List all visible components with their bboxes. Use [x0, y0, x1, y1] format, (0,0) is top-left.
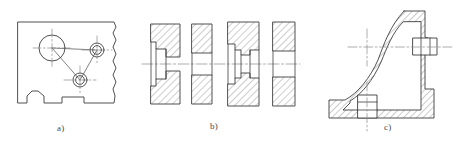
figure-b-ring-2-lower-section — [192, 75, 212, 104]
figure-b-ring-3-upper-section — [228, 22, 259, 55]
figure-c-bracket — [329, 11, 437, 118]
figure-c-right-boss — [413, 38, 437, 55]
figure-b-ring-1-lower-section — [151, 71, 180, 104]
technical-drawing-sheet: a) b) c) — [0, 0, 466, 147]
figure-b-ring-4-upper-section — [273, 22, 295, 51]
figure-a-outline — [18, 22, 116, 103]
figure-c-bottom-boss-body — [358, 95, 377, 118]
figure-b-ring-1-upper-section — [151, 24, 180, 57]
figure-b-ring-4-lower-section — [273, 77, 295, 106]
figure-c-right-boss-body — [413, 38, 437, 55]
drawing-canvas — [0, 0, 466, 147]
figure-a-plate — [18, 22, 116, 103]
figure-c-bottom-boss — [358, 95, 377, 118]
figure-a-centerlines — [33, 29, 112, 94]
figure-b-caption: b) — [210, 121, 218, 131]
figure-b-ring-3-lower-section — [228, 73, 259, 106]
figure-b-ring-2-upper-section — [192, 24, 212, 53]
figure-c-caption: c) — [384, 122, 392, 132]
figure-a-caption: a) — [57, 123, 65, 133]
